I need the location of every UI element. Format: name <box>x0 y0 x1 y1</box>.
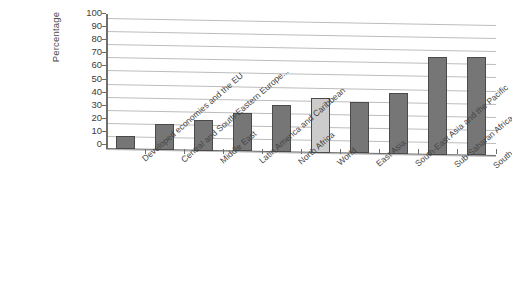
x-axis-label[interactable]: World <box>335 160 342 168</box>
y-tick-label: 40 <box>91 87 102 97</box>
x-tick-mark <box>496 149 497 154</box>
y-tick-label: 20 <box>91 113 102 123</box>
x-axis-label[interactable]: North Africa <box>296 159 303 167</box>
x-tick-mark <box>418 149 419 154</box>
y-tick-label: 100 <box>86 8 102 18</box>
y-tick-label: 10 <box>91 126 102 136</box>
y-tick-label: 70 <box>91 47 102 57</box>
y-axis-tick-labels: 1009080706050403020100 <box>72 13 106 149</box>
x-axis-label[interactable]: East Asia <box>374 161 381 169</box>
bar[interactable] <box>116 136 136 149</box>
x-axis-label[interactable]: Central and South-Eastern Europe... <box>179 157 186 165</box>
y-tick-label: 50 <box>91 74 102 84</box>
y-tick-label: 90 <box>91 21 102 31</box>
x-axis-label[interactable]: Developed economies and the EU <box>140 156 147 164</box>
x-axis-label[interactable]: South-East Asia and the Pacific <box>413 161 420 169</box>
x-axis-label[interactable]: Middle East <box>218 158 225 166</box>
x-axis-label[interactable]: South Asia <box>491 163 498 171</box>
x-tick-mark <box>379 149 380 154</box>
bar[interactable] <box>350 102 370 153</box>
y-tick-label: 80 <box>91 34 102 44</box>
y-axis-title: Percentage <box>50 0 70 82</box>
y-tick-label: 30 <box>91 100 102 110</box>
bar-chart: Percentage 1009080706050403020100 Develo… <box>0 0 512 293</box>
x-axis-label[interactable]: Sub-Saharan Africa <box>452 162 459 170</box>
y-tick-label: 60 <box>91 60 102 70</box>
x-axis-label[interactable]: Latin America and Caribbean <box>257 158 264 166</box>
x-tick-mark <box>457 149 458 154</box>
